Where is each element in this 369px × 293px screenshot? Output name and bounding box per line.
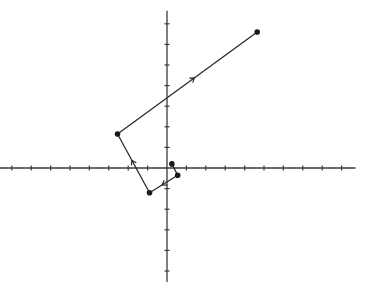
vector-path-diagram: [0, 0, 369, 293]
direction-arrows: [131, 78, 194, 185]
path-point-p0: [169, 161, 175, 167]
path-point-p3: [115, 131, 121, 137]
path-point-p1: [175, 172, 181, 178]
path-points: [115, 29, 260, 195]
coordinate-axes: [0, 11, 356, 282]
path-point-p4: [254, 29, 260, 35]
path-point-p2: [147, 190, 153, 196]
